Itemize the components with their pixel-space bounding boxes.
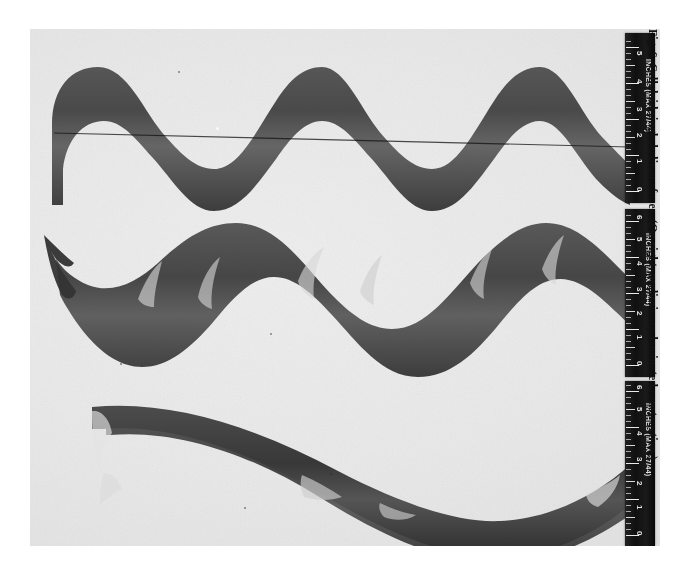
helix-middle-band bbox=[44, 223, 630, 377]
figure-caption-text: Celluloid single helix surfaces. (On rig… bbox=[647, 63, 659, 460]
dust-speck bbox=[120, 363, 122, 365]
scanned-book-page: 0 1 2 3 4 5 INCHES (MAX 27/44) bbox=[0, 0, 689, 574]
figure-number: Fig. 6 bbox=[647, 29, 659, 57]
dust-speck bbox=[178, 71, 180, 73]
dust-speck bbox=[244, 507, 246, 509]
dust-speck bbox=[270, 333, 272, 335]
helix-bottom bbox=[30, 377, 630, 546]
figure-caption: Fig. 6Celluloid single helix surfaces. (… bbox=[642, 29, 664, 546]
dust-speck bbox=[216, 127, 219, 130]
helix-middle bbox=[30, 207, 630, 382]
helix-top-band bbox=[30, 29, 630, 214]
figure-photograph-plate: 0 1 2 3 4 5 INCHES (MAX 27/44) bbox=[30, 29, 660, 546]
dust-speck bbox=[330, 473, 332, 475]
helix-top bbox=[30, 29, 630, 214]
